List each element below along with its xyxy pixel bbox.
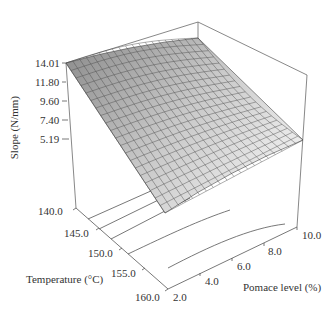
y-tick-label: 6.0 [237,261,251,272]
z-axis-title: Slope (N/mm) [8,96,20,159]
y-tick-label: 4.0 [205,276,219,287]
response-surface [66,38,303,213]
y-axis-title: Pomace level (%) [243,282,321,293]
x-tick-label: 140.0 [38,206,63,217]
y-tick-label: 2.0 [173,292,187,303]
x-tick-label: 155.0 [111,268,136,279]
y-tick-label: 8.0 [268,246,282,257]
z-tick-label: 9.60 [40,96,59,107]
x-tick-label: 160.0 [135,292,160,303]
z-tick-label: 5.19 [40,134,59,145]
x-axis-title: Temperature (°C) [26,274,103,285]
z-tick-label: 14.01 [35,58,60,69]
z-tick-label: 7.40 [40,115,59,126]
z-tick-label: 11.80 [35,77,59,88]
plot-canvas [0,0,336,316]
response-surface-chart: 14.01 11.80 9.60 7.40 5.19 Slope (N/mm) … [0,0,336,316]
x-tick-label: 150.0 [88,248,113,259]
x-tick-label: 145.0 [64,228,89,239]
y-tick-label: 10.0 [302,230,321,241]
